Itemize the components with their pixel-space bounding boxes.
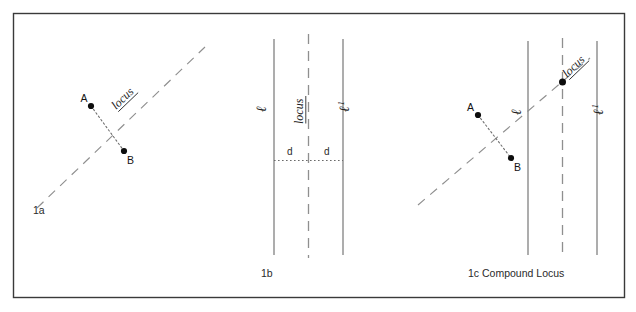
caption-1a: 1a xyxy=(33,204,45,216)
locus-diagram: A B locus 1a ℓ ℓ xyxy=(0,0,636,312)
locus-line-dashed xyxy=(37,47,205,208)
line-l1-label-1b: ℓ xyxy=(337,106,352,112)
panel-1b: ℓ ℓ 1 locus d d 1b xyxy=(254,34,352,279)
segment-ab-dotted-1c xyxy=(478,115,511,158)
point-a-marker xyxy=(88,103,94,109)
distance-label-left-1b: d xyxy=(287,146,293,157)
line-l1-label-group-1b: ℓ 1 xyxy=(336,101,352,112)
point-a-label-1c: A xyxy=(467,101,474,113)
point-b-label-1c: B xyxy=(514,161,521,173)
locus-word-group-1b: locus xyxy=(292,96,306,124)
point-a-marker-1c xyxy=(475,112,481,118)
caption-1c: 1c Compound Locus xyxy=(468,267,564,279)
line-l1-label-sup-1b: 1 xyxy=(336,101,346,106)
line-l-label-group-1b: ℓ xyxy=(254,106,269,112)
figure-border xyxy=(14,14,625,298)
panel-1a: A B locus 1a xyxy=(33,47,205,216)
locus-word-group-1a: locus xyxy=(108,83,138,112)
locus-word-group-1c: locus xyxy=(559,51,589,80)
point-b-label: B xyxy=(127,154,134,166)
line-l-label-1b: ℓ xyxy=(254,106,269,112)
line-l1-label-1c: ℓ xyxy=(591,109,606,115)
distance-label-right-1b: d xyxy=(324,146,330,157)
line-l-label-1c: ℓ xyxy=(509,109,524,115)
panel-1c: A B ℓ ℓ 1 locus 1c Compound Locus xyxy=(418,38,606,279)
segment-ab-dotted xyxy=(91,106,124,151)
line-l-label-group-1c: ℓ xyxy=(509,109,524,115)
caption-1b: 1b xyxy=(261,267,273,279)
compound-locus-point-marker xyxy=(559,79,566,86)
line-l1-label-sup-1c: 1 xyxy=(590,104,600,109)
locus-word-1b: locus xyxy=(292,98,306,124)
line-l1-label-group-1c: ℓ 1 xyxy=(590,104,606,115)
figure-canvas: A B locus 1a ℓ ℓ xyxy=(0,0,636,312)
point-a-label: A xyxy=(81,92,88,104)
